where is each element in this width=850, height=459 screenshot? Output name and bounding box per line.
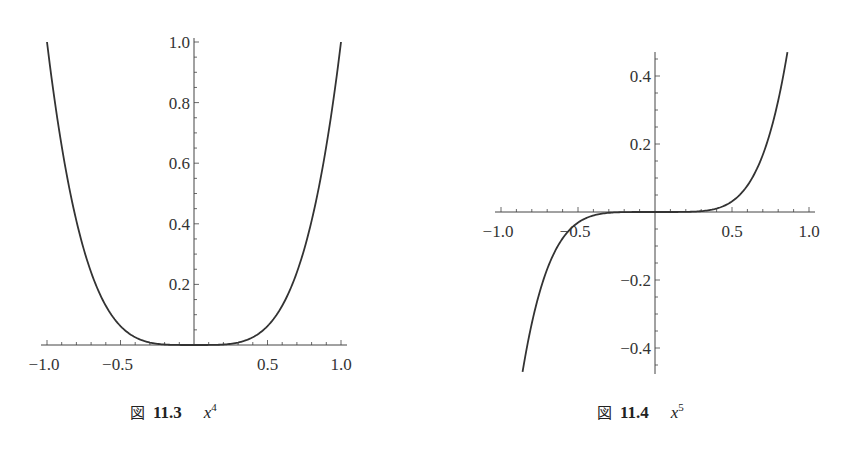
y-tick-label: −0.4	[620, 339, 651, 358]
y-tick-label: 0.2	[169, 275, 190, 294]
y-tick-label: 0.8	[169, 94, 190, 113]
x-tick-label: 0.5	[257, 355, 278, 374]
x-tick-label: −0.5	[102, 355, 133, 374]
caption-figure-11-4: 図11.4x5	[597, 401, 684, 423]
caption-figure-11-3: 図11.3x4	[130, 401, 217, 423]
x-tick-label: 0.5	[721, 222, 742, 241]
y-tick-label: 0.4	[630, 67, 652, 86]
figure-expression: x4	[204, 403, 217, 422]
figure-expression: x5	[671, 403, 684, 422]
figure-canvas: −1.0−0.50.51.00.20.40.60.81.0 −1.0−0.50.…	[0, 0, 850, 459]
y-tick-label: 1.0	[169, 33, 190, 52]
expr-exponent: 5	[678, 401, 684, 413]
y-tick-label: −0.2	[620, 271, 651, 290]
x-tick-label: 1.0	[798, 222, 819, 241]
figure-char: 図	[130, 404, 145, 422]
chart-x4-tick-labels: −1.0−0.50.51.00.20.40.60.81.0	[29, 33, 352, 374]
y-tick-label: 0.4	[169, 215, 191, 234]
y-tick-label: 0.6	[169, 154, 190, 173]
figure-char: 図	[597, 404, 612, 422]
x-tick-label: 1.0	[330, 355, 351, 374]
chart-x4: −1.0−0.50.51.00.20.40.60.81.0	[29, 33, 352, 374]
x-tick-label: −1.0	[29, 355, 60, 374]
chart-x5-axes	[495, 52, 815, 374]
y-tick-label: 0.2	[630, 135, 651, 154]
expr-exponent: 4	[211, 401, 217, 413]
chart-x4-ticks	[47, 42, 341, 345]
chart-x5: −1.0−0.50.51.0−0.4−0.20.20.4	[483, 52, 820, 374]
figure-number: 11.3	[153, 403, 182, 422]
chart-x4-axes	[41, 38, 347, 345]
x-tick-label: −1.0	[483, 222, 514, 241]
figure-number: 11.4	[620, 403, 649, 422]
